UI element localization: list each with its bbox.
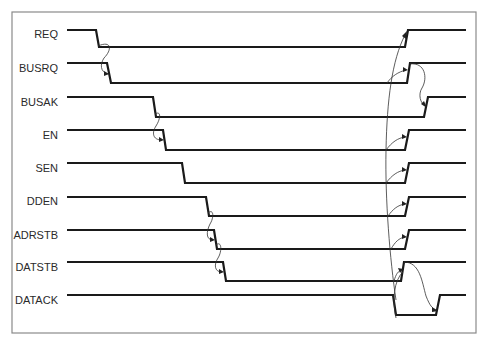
waveform-sen (67, 163, 466, 183)
waveform-datstb (67, 262, 466, 281)
signal-label-busrq: BUSRQ (19, 62, 59, 74)
waveform-busrq (67, 63, 466, 83)
signal-labels: REQBUSRQBUSAKENSENDDENADRSTBDATSTBDATACK (13, 28, 58, 306)
signal-label-datack: DATACK (15, 294, 59, 306)
waveform-busak (67, 97, 466, 117)
signal-label-req: REQ (34, 28, 58, 40)
waveform-adrstb (67, 230, 466, 249)
waveform-datack (67, 295, 466, 315)
arrow-to-en-rise (386, 137, 405, 150)
timing-diagram: REQBUSRQBUSAKENSENDDENADRSTBDATSTBDATACK (0, 0, 485, 345)
arrowhead-icon (403, 67, 408, 72)
signal-label-en: EN (43, 129, 58, 141)
arrow-to-busrq-rise (387, 70, 406, 83)
arrow-busrq-to-busak-rise (410, 64, 426, 106)
waveform-en (67, 130, 466, 150)
arrow-datstb-to-datack-rise (404, 262, 436, 310)
signal-label-dden: DDEN (27, 195, 58, 207)
arrow-to-sen-rise (386, 170, 405, 183)
signal-label-busak: BUSAK (21, 96, 59, 108)
waveform-dden (67, 197, 466, 216)
signal-waveforms (67, 30, 466, 315)
causality-arrows (98, 31, 438, 318)
signal-label-adrstb: ADRSTB (13, 229, 58, 241)
arrow-to-adrstb-rise (391, 237, 405, 249)
signal-label-sen: SEN (35, 162, 58, 174)
signal-label-datstb: DATSTB (15, 261, 58, 273)
